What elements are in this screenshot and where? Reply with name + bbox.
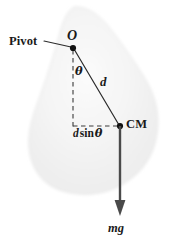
weight-force-arrowhead [115, 200, 126, 216]
physics-diagram-figure: Pivot O θ d d sin θ CM mg [0, 0, 182, 250]
d-sin-theta-theta-part: θ [95, 126, 103, 140]
origin-label: O [67, 29, 77, 43]
distance-d-label: d [100, 75, 107, 88]
pivot-label: Pivot [9, 35, 37, 48]
angle-theta-label: θ [75, 66, 83, 78]
pivot-point-dot [70, 45, 76, 51]
center-of-mass-label: CM [126, 118, 147, 131]
d-sin-theta-sin-part: sin [80, 127, 94, 139]
weight-force-label: mg [108, 222, 124, 235]
rigid-body-blob [29, 7, 158, 194]
d-sin-theta-label: d sin θ [73, 128, 102, 140]
